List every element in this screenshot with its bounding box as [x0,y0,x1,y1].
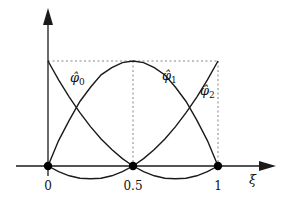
x-axis-arrow-icon [259,161,276,171]
x-tick-1: 1 [214,179,222,193]
label-phi0: φ̂0 [70,70,85,87]
x-tick-0: 0 [44,179,52,193]
x-tick-0.5: 0.5 [123,179,142,193]
x-axis-label: ξ [249,172,257,187]
y-axis-arrow-icon [43,8,53,25]
label-phi2: φ̂2 [200,83,215,100]
label-phi1: φ̂1 [162,68,177,85]
node-1 [214,162,222,170]
node-0 [44,162,52,170]
basis-function-diagram: 0 0.5 1 ξ φ̂0 φ̂1 φ̂2 [0,0,289,201]
node-0.5 [129,162,137,170]
